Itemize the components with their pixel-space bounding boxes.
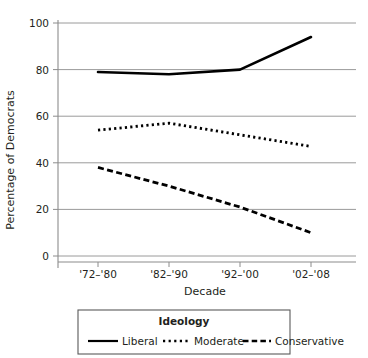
y-tick-label-100: 100 xyxy=(29,17,49,29)
series-line-moderate xyxy=(98,123,311,146)
series-line-conservative xyxy=(98,167,311,232)
chart-canvas: 100 80 60 40 20 0 Percentage of Democrat… xyxy=(0,0,368,358)
legend-label-liberal: Liberal xyxy=(122,335,158,347)
y-tick-label-40: 40 xyxy=(36,157,49,169)
gridlines xyxy=(58,23,356,256)
x-axis-title: Decade xyxy=(184,285,226,298)
y-tick-label-20: 20 xyxy=(36,203,49,215)
legend-item-conservative[interactable]: Conservative xyxy=(243,335,344,347)
legend-item-moderate[interactable]: Moderate xyxy=(163,335,244,347)
legend-label-moderate: Moderate xyxy=(194,335,244,347)
x-tick-label-3: '92–'00 xyxy=(221,268,259,280)
y-tick-label-80: 80 xyxy=(36,64,49,76)
x-tick-labels: '72–'80 '82–'90 '92–'00 '02–'08 xyxy=(79,268,330,280)
legend-item-liberal[interactable]: Liberal xyxy=(88,335,158,347)
legend: Ideology Liberal Moderate Conservative xyxy=(78,310,344,354)
series-group xyxy=(98,37,311,233)
y-tick-label-60: 60 xyxy=(36,110,49,122)
x-tickmarks xyxy=(98,262,311,267)
legend-label-conservative: Conservative xyxy=(275,335,344,347)
y-tick-labels: 100 80 60 40 20 0 xyxy=(29,17,49,262)
line-chart-figure: 100 80 60 40 20 0 Percentage of Democrat… xyxy=(0,0,368,358)
y-tickmarks xyxy=(53,23,58,256)
x-tick-label-1: '72–'80 xyxy=(79,268,117,280)
x-tick-label-2: '82–'90 xyxy=(150,268,188,280)
y-axis-title: Percentage of Democrats xyxy=(4,90,17,230)
series-line-liberal xyxy=(98,37,311,74)
legend-title: Ideology xyxy=(159,315,210,327)
x-tick-label-4: '02–'08 xyxy=(292,268,330,280)
y-tick-label-0: 0 xyxy=(42,250,49,262)
